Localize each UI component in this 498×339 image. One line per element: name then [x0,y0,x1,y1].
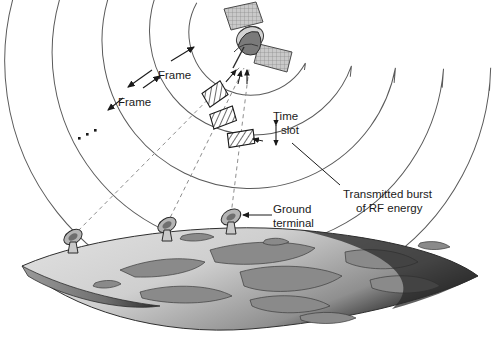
label-ground-line1: Ground [273,203,311,216]
burst-leader-line [292,143,340,185]
label-ground-line2: terminal [273,217,314,230]
solar-panel-upper [224,2,263,30]
beam-arrow-2 [238,71,241,84]
diagram-svg [0,0,498,339]
burst-callout [253,139,340,185]
burst-2 [209,106,237,129]
ellipsis-dots [78,129,97,140]
label-time-slot-line1: Time [273,110,298,123]
beam-arrow-1 [226,70,236,82]
diagram-canvas: Frame Frame Time slot Transmitted burst … [0,0,498,339]
label-time-slot-line2: slot [281,124,299,137]
label-burst-line2: of RF energy [356,202,422,215]
burst-1 [201,81,229,108]
label-frame-inner: Frame [158,69,191,82]
beam-direction-arrows [226,70,247,84]
label-burst-line1: Transmitted burst [343,188,432,201]
label-frame-outer: Frame [118,96,151,109]
satellite-feed [233,47,244,68]
frame-arrow-inner-right [171,47,194,61]
satellite [224,2,292,72]
